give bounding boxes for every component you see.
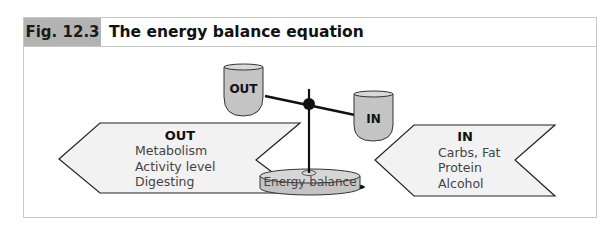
in-item: Carbs, Fat <box>438 145 501 160</box>
out-pan-label: OUT <box>229 82 258 96</box>
out-item: Metabolism <box>135 143 207 158</box>
in-pan-label: IN <box>366 112 381 126</box>
scale-base: Energy balance <box>260 169 365 195</box>
in-item: Protein <box>438 160 482 175</box>
out-pan: OUT <box>224 64 263 116</box>
in-pan: IN <box>354 91 393 141</box>
out-arrow-heading: OUT <box>165 128 196 143</box>
energy-balance-diagram: OUT Metabolism Activity level Digesting … <box>0 0 615 233</box>
out-item: Digesting <box>135 174 194 189</box>
base-label: Energy balance <box>263 175 356 189</box>
out-item: Activity level <box>135 159 215 174</box>
scale-pivot <box>303 98 315 110</box>
in-arrow: IN Carbs, Fat Protein Alcohol <box>375 125 555 196</box>
in-arrow-heading: IN <box>457 129 473 144</box>
in-item: Alcohol <box>438 176 484 191</box>
